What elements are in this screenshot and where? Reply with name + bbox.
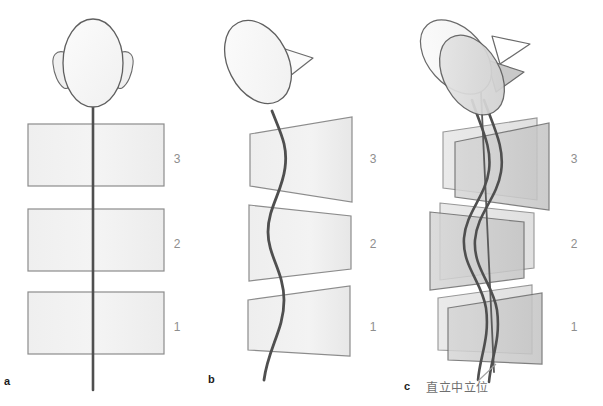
panel-a-graphics <box>28 19 164 390</box>
panel-b-number-3: 3 <box>365 152 381 166</box>
panel-b-block-2 <box>249 205 351 281</box>
panel-b-block-1 <box>248 286 350 356</box>
panel-c-number-1: 1 <box>566 320 582 334</box>
panel-c-block-2-dark <box>430 212 524 290</box>
panel-a-number-2: 2 <box>169 237 185 251</box>
figure-canvas <box>0 0 603 406</box>
panel-a-block-3 <box>28 124 164 186</box>
panel-a-block-2 <box>28 209 164 271</box>
panel-b-graphics <box>211 9 352 380</box>
anatomical-figure: a 3 2 1 b 3 2 1 c 直立中立位 3 2 1 <box>0 0 603 406</box>
panel-c-number-3: 3 <box>566 152 582 166</box>
panel-c-graphics <box>406 6 549 382</box>
panel-a-head <box>63 19 123 107</box>
panel-b-letter: b <box>208 373 215 385</box>
panel-a-block-1 <box>28 292 164 354</box>
panel-a-number-1: 1 <box>169 320 185 334</box>
neutral-position-label: 直立中立位 <box>426 378 489 395</box>
panel-c-number-2: 2 <box>566 237 582 251</box>
panel-b-number-2: 2 <box>365 237 381 251</box>
panel-c-letter: c <box>404 380 410 392</box>
panel-a-number-3: 3 <box>169 152 185 166</box>
panel-b-number-1: 1 <box>365 320 381 334</box>
panel-a-letter: a <box>4 375 10 387</box>
panel-c-ear-light <box>492 36 530 64</box>
panel-b-block-3 <box>250 117 352 202</box>
